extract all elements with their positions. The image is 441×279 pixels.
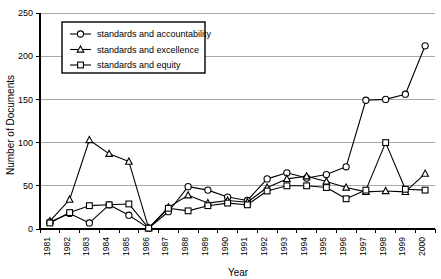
data-point-marker <box>86 136 93 142</box>
data-point-marker <box>422 170 429 176</box>
x-tick-label: 1985 <box>121 237 131 256</box>
y-axis-tick-labels: 050100150200250 <box>18 8 33 234</box>
x-tick-label: 1998 <box>378 237 388 256</box>
data-point-marker <box>205 203 211 209</box>
data-point-marker <box>106 202 112 208</box>
data-point-marker <box>66 196 73 202</box>
data-point-marker <box>422 187 428 193</box>
x-tick-label: 1984 <box>101 237 111 256</box>
data-point-marker <box>205 187 211 193</box>
data-point-marker <box>382 187 389 193</box>
line-chart: 050100150200250 198119821983198419851986… <box>0 0 441 279</box>
x-tick-label: 1991 <box>239 237 249 256</box>
data-point-marker <box>244 202 250 208</box>
data-point-marker <box>146 225 152 231</box>
data-point-marker <box>47 220 53 226</box>
data-point-marker <box>264 188 270 194</box>
data-point-marker <box>363 97 369 103</box>
chart-legend: standards and accountabilitystandards an… <box>62 22 212 73</box>
y-tick-label: 100 <box>18 138 33 148</box>
x-axis-tick-labels: 1981198219831984198519861987198819891990… <box>42 237 427 256</box>
x-axis <box>40 229 435 233</box>
legend-marker-square <box>78 62 84 68</box>
data-point-marker <box>402 186 408 192</box>
x-tick-label: 1982 <box>62 237 72 256</box>
x-tick-label: 1987 <box>160 237 170 256</box>
data-point-marker <box>185 184 191 190</box>
y-tick-label: 250 <box>18 8 33 18</box>
x-axis-title: Year <box>228 267 249 278</box>
chart-container: 050100150200250 198119821983198419851986… <box>0 0 441 279</box>
data-point-marker <box>343 164 349 170</box>
y-axis-title: Number of Documents <box>5 75 16 175</box>
legend-marker-circle <box>77 31 83 37</box>
x-tick-label: 1992 <box>259 237 269 256</box>
x-tick-label: 1999 <box>397 237 407 256</box>
data-point-marker <box>185 208 191 214</box>
data-point-marker <box>383 140 389 146</box>
data-point-marker <box>323 185 329 191</box>
data-point-marker <box>126 212 132 218</box>
x-tick-label: 1986 <box>141 237 151 256</box>
x-tick-label: 2000 <box>417 237 427 256</box>
data-point-marker <box>363 187 369 193</box>
data-point-marker <box>106 150 113 156</box>
x-tick-label: 1983 <box>81 237 91 256</box>
y-tick-label: 150 <box>18 95 33 105</box>
data-point-marker <box>185 192 192 198</box>
x-tick-label: 1996 <box>338 237 348 256</box>
series-triangle <box>47 136 429 230</box>
data-point-marker <box>304 183 310 189</box>
data-point-marker <box>402 91 408 97</box>
x-tick-label: 1990 <box>220 237 230 256</box>
x-tick-label: 1993 <box>279 237 289 256</box>
y-tick-label: 50 <box>23 181 33 191</box>
x-tick-label: 1997 <box>358 237 368 256</box>
x-tick-label: 1981 <box>42 237 52 256</box>
data-point-marker <box>343 196 349 202</box>
legend-label: standards and excellence <box>97 45 199 55</box>
y-axis <box>36 13 40 229</box>
legend-label: standards and equity <box>97 60 181 70</box>
data-point-marker <box>264 176 270 182</box>
data-point-marker <box>165 205 171 211</box>
data-point-marker <box>284 183 290 189</box>
data-point-marker <box>67 210 73 216</box>
y-tick-label: 0 <box>28 224 33 234</box>
x-tick-label: 1994 <box>299 237 309 256</box>
data-point-marker <box>86 220 92 226</box>
x-tick-label: 1989 <box>200 237 210 256</box>
data-point-marker <box>126 201 132 207</box>
legend-label: standards and accountability <box>97 29 212 39</box>
data-point-marker <box>383 96 389 102</box>
x-tick-label: 1988 <box>180 237 190 256</box>
data-point-marker <box>86 203 92 209</box>
data-point-marker <box>225 200 231 206</box>
x-tick-label: 1995 <box>318 237 328 256</box>
y-tick-label: 200 <box>18 51 33 61</box>
data-point-marker <box>422 43 428 49</box>
